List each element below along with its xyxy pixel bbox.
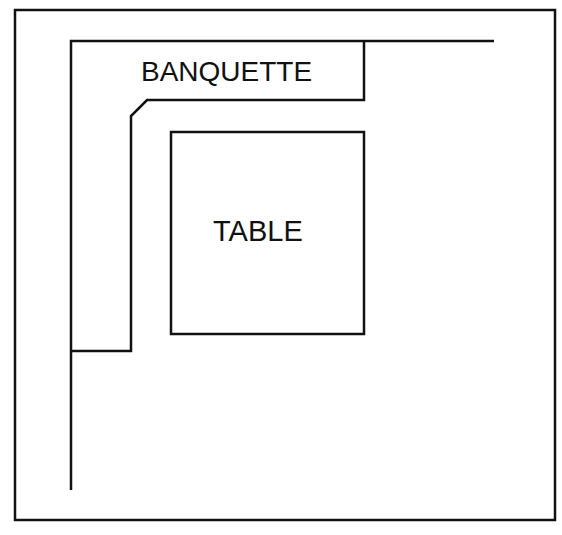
wall-line [71,41,494,490]
table-label: TABLE [213,215,303,248]
banquette-label: BANQUETTE [141,56,312,88]
floor-plan-diagram: BANQUETTE TABLE [0,0,562,535]
